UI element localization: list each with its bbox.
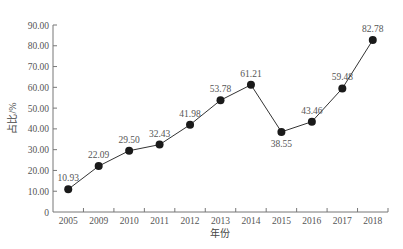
x-tick-label: 2013 bbox=[211, 216, 230, 226]
line-chart: 010.0020.0030.0040.0050.0060.0070.0080.0… bbox=[0, 0, 403, 249]
y-tick-label: 20.00 bbox=[28, 166, 50, 176]
x-axis: 2005200920102011201220132014201520162017… bbox=[53, 208, 388, 226]
y-tick-label: 40.00 bbox=[28, 124, 50, 134]
y-tick-label: 50.00 bbox=[28, 104, 50, 114]
data-point-marker bbox=[338, 84, 346, 92]
y-tick-label: 0 bbox=[44, 208, 49, 218]
y-axis-title: 占比/% bbox=[6, 102, 18, 133]
y-tick-label: 60.00 bbox=[28, 83, 50, 93]
data-point-marker bbox=[277, 128, 285, 136]
data-point-marker bbox=[64, 185, 72, 193]
data-point-marker bbox=[156, 141, 164, 149]
data-point-label: 32.43 bbox=[149, 129, 171, 139]
y-tick-label: 30.00 bbox=[28, 145, 50, 155]
data-point-label: 59.48 bbox=[332, 72, 354, 82]
data-point-marker bbox=[217, 96, 225, 104]
y-axis: 010.0020.0030.0040.0050.0060.0070.0080.0… bbox=[28, 21, 57, 218]
x-tick-label: 2010 bbox=[120, 216, 139, 226]
x-tick-label: 2015 bbox=[272, 216, 291, 226]
data-point-marker bbox=[186, 121, 194, 129]
data-point-marker bbox=[369, 36, 377, 44]
data-point-label: 10.93 bbox=[58, 173, 80, 183]
y-tick-label: 90.00 bbox=[28, 21, 50, 31]
x-tick-label: 2012 bbox=[181, 216, 200, 226]
data-point-label: 53.78 bbox=[210, 84, 232, 94]
y-tick-label: 80.00 bbox=[28, 41, 50, 51]
y-tick-label: 70.00 bbox=[28, 62, 50, 72]
x-tick-label: 2009 bbox=[89, 216, 108, 226]
data-point-label: 43.46 bbox=[301, 106, 323, 116]
x-tick-label: 2017 bbox=[333, 216, 352, 226]
data-point-label: 41.98 bbox=[179, 109, 201, 119]
x-tick-label: 2014 bbox=[241, 216, 260, 226]
data-point-label: 82.78 bbox=[362, 24, 384, 34]
data-point-label: 61.21 bbox=[240, 69, 262, 79]
x-tick-label: 2016 bbox=[302, 216, 321, 226]
y-tick-label: 10.00 bbox=[28, 187, 50, 197]
data-point-marker bbox=[95, 162, 103, 170]
data-point-marker bbox=[308, 118, 316, 126]
data-point-marker bbox=[247, 81, 255, 89]
x-tick-label: 2018 bbox=[363, 216, 382, 226]
data-point-marker bbox=[125, 147, 133, 155]
series-line bbox=[68, 40, 373, 189]
x-tick-label: 2011 bbox=[150, 216, 169, 226]
x-axis-title: 年份 bbox=[210, 227, 230, 239]
data-point-label: 38.55 bbox=[271, 139, 293, 149]
x-tick-label: 2005 bbox=[59, 216, 78, 226]
data-series: 10.9322.0929.5032.4341.9853.7861.2138.55… bbox=[58, 24, 384, 193]
data-point-label: 22.09 bbox=[88, 150, 110, 160]
data-point-label: 29.50 bbox=[118, 135, 140, 145]
